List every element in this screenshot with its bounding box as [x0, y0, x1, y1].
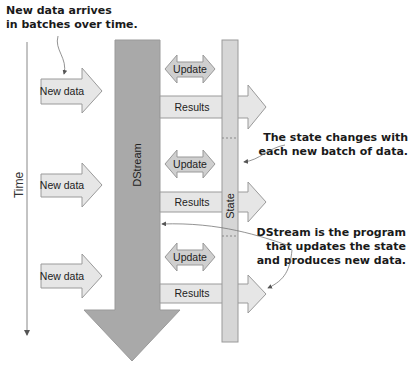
new-data-label: New data	[40, 270, 85, 282]
annotation-line: each new batch of data.	[259, 145, 408, 158]
annotation-line: that updates the state	[266, 240, 406, 253]
update-label: Update	[173, 63, 207, 75]
results-label: Results	[174, 196, 209, 208]
update-arrow: Update	[165, 55, 215, 83]
new-data-arrow: New data	[40, 68, 102, 113]
new-data-arrow: New data	[40, 163, 102, 207]
annotation-line: New data arrives	[6, 4, 112, 17]
update-arrow: Update	[165, 243, 215, 271]
annotation-state-changes: The state changes with each new batch of…	[244, 131, 408, 162]
new-data-arrow: New data	[40, 254, 102, 298]
new-data-label: New data	[40, 85, 85, 97]
annotation-line: The state changes with	[263, 131, 408, 144]
dstream-label: DStream	[131, 143, 143, 186]
state-bar: State	[222, 40, 238, 342]
update-arrow: Update	[165, 150, 215, 178]
results-label: Results	[174, 101, 209, 113]
annotation-line: and produces new data.	[257, 254, 406, 267]
update-label: Update	[173, 158, 207, 170]
time-axis-label: Time	[12, 172, 26, 199]
annotation-line: DStream is the program	[257, 226, 406, 239]
dstream-diagram: Time DStream New data Update New data Up…	[0, 0, 412, 373]
time-axis: Time	[12, 42, 27, 335]
new-data-label: New data	[40, 179, 85, 191]
state-label: State	[224, 193, 236, 219]
results-label: Results	[174, 287, 209, 299]
update-label: Update	[173, 251, 207, 263]
annotation-line: in batches over time.	[6, 18, 138, 31]
